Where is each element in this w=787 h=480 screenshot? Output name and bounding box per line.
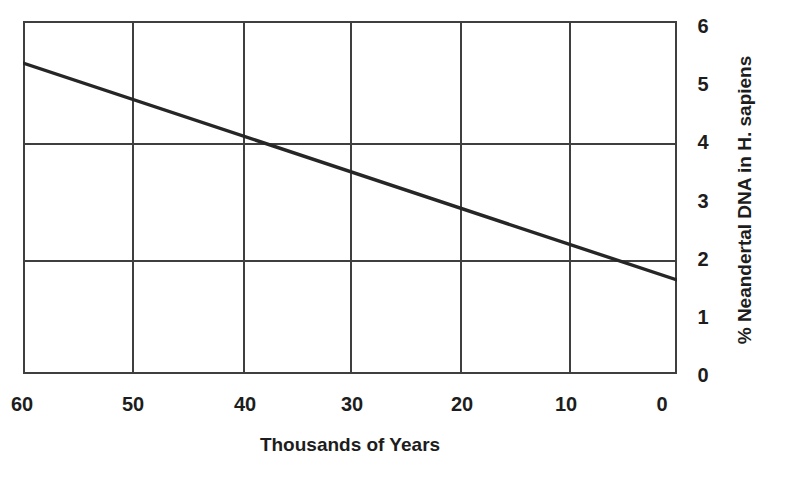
y-tick-label-2: 2 bbox=[690, 248, 716, 271]
y-tick-label-3: 3 bbox=[690, 190, 716, 213]
y-tick-label-5: 5 bbox=[690, 73, 716, 96]
y-tick-label-1: 1 bbox=[690, 306, 716, 329]
x-tick-label-20: 20 bbox=[432, 393, 492, 416]
y-tick-label-4: 4 bbox=[690, 131, 716, 154]
x-tick-label-40: 40 bbox=[215, 393, 275, 416]
x-tick-label-60: 60 bbox=[0, 393, 52, 416]
plot-area bbox=[23, 21, 677, 374]
x-gridlines bbox=[24, 21, 676, 374]
x-tick-label-50: 50 bbox=[103, 393, 163, 416]
x-tick-label-0: 0 bbox=[632, 393, 692, 416]
x-tick-label-30: 30 bbox=[322, 393, 382, 416]
y-axis-title: % Neandertal DNA in H. sapiens bbox=[734, 0, 756, 400]
y-tick-label-0: 0 bbox=[690, 364, 716, 387]
x-axis-title: Thousands of Years bbox=[0, 434, 700, 456]
y-tick-label-6: 6 bbox=[690, 15, 716, 38]
plot-svg bbox=[23, 21, 677, 374]
x-tick-label-10: 10 bbox=[536, 393, 596, 416]
chart-figure: 60 50 40 30 20 10 0 6 5 4 3 2 1 0 Thousa… bbox=[0, 0, 787, 480]
